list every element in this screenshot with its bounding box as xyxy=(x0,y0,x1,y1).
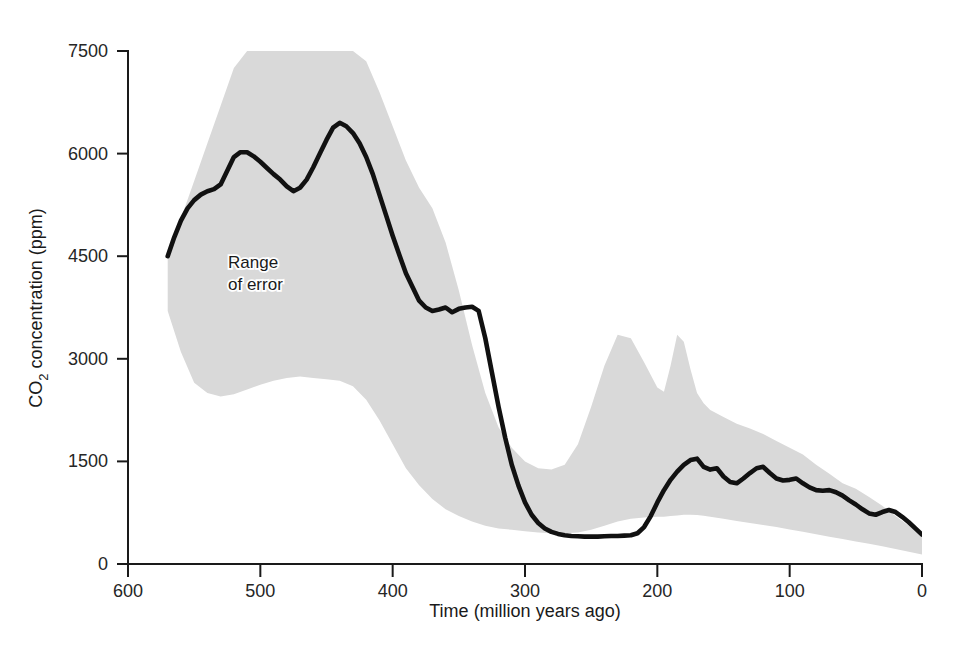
y-tick-marks xyxy=(117,51,128,564)
range-of-error-label-line2: of error xyxy=(228,275,283,294)
y-tick-label: 0 xyxy=(98,554,108,574)
y-axis-title-suffix: concentration (ppm) xyxy=(26,208,46,373)
y-axis-title: CO2 concentration (ppm) xyxy=(26,208,51,407)
x-tick-label: 0 xyxy=(917,581,927,601)
y-tick-label: 7500 xyxy=(68,41,108,61)
co2-concentration-figure: 015003000450060007500 600500400300200100… xyxy=(0,0,958,656)
x-axis-title: Time (million years ago) xyxy=(429,601,620,621)
chart-canvas: 015003000450060007500 600500400300200100… xyxy=(0,0,958,656)
range-of-error-band xyxy=(168,51,922,554)
x-tick-label: 400 xyxy=(378,581,408,601)
y-tick-label: 3000 xyxy=(68,349,108,369)
y-tick-labels: 015003000450060007500 xyxy=(68,41,108,574)
y-axis-title-prefix: CO xyxy=(26,381,46,408)
x-tick-label: 600 xyxy=(113,581,143,601)
y-tick-label: 1500 xyxy=(68,451,108,471)
x-tick-marks xyxy=(128,564,922,577)
x-tick-label: 200 xyxy=(642,581,672,601)
range-of-error-band-group xyxy=(168,51,922,554)
x-tick-labels: 6005004003002001000 xyxy=(113,581,927,601)
y-tick-label: 6000 xyxy=(68,144,108,164)
y-axis-title-subscript: 2 xyxy=(36,373,51,380)
x-tick-label: 300 xyxy=(510,581,540,601)
range-of-error-label-line1: Range xyxy=(228,253,278,272)
figure-caption-strip xyxy=(0,644,958,656)
x-tick-label: 500 xyxy=(245,581,275,601)
y-tick-label: 4500 xyxy=(68,246,108,266)
x-tick-label: 100 xyxy=(775,581,805,601)
